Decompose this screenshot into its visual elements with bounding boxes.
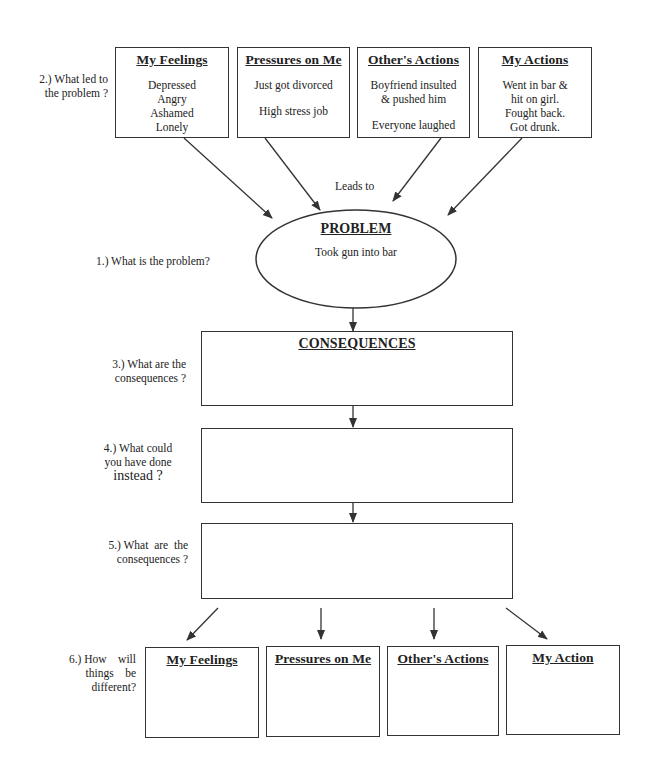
problem-text: Took gun into bar xyxy=(256,246,456,258)
box-line: High stress job xyxy=(238,104,349,118)
box-line: Everyone laughed xyxy=(358,118,469,132)
consequences-title: CONSEQUENCES xyxy=(202,336,512,352)
step-3-label: 3.) What are the consequences ? xyxy=(100,357,186,385)
box-line: Went in bar & xyxy=(479,78,591,92)
alternative-action-box xyxy=(201,428,513,503)
step-5-label: 5.) What are the consequences ? xyxy=(100,538,188,566)
top-box-my-feelings: My Feelings Depressed Angry Ashamed Lone… xyxy=(115,47,229,138)
consequences-box: CONSEQUENCES xyxy=(201,331,513,406)
leads-to-label: Leads to xyxy=(335,180,374,192)
bottom-box-others-actions: Other's Actions xyxy=(387,646,499,736)
problem-ellipse: PROBLEM Took gun into bar xyxy=(256,221,456,258)
box-line: Angry xyxy=(116,92,228,106)
step-6-label: 6.) How will things be different? xyxy=(58,652,136,694)
step-4-line-1: 4.) What could xyxy=(98,441,178,455)
step-2-line-2: the problem ? xyxy=(20,86,108,100)
step-4-line-2: you have done xyxy=(98,455,178,469)
step-4-label: 4.) What could you have done instead ? xyxy=(98,441,178,483)
step-1-label: 1.) What is the problem? xyxy=(96,255,210,267)
problem-title: PROBLEM xyxy=(256,221,456,237)
box-title: Other's Actions xyxy=(358,52,469,68)
box-line: Got drunk. xyxy=(479,120,591,134)
top-box-others-actions: Other's Actions Boyfriend insulted & pus… xyxy=(357,47,470,138)
box-line: Depressed xyxy=(116,78,228,92)
step-6-line-3: different? xyxy=(58,680,136,694)
box-title: My Feelings xyxy=(116,52,228,68)
bottom-box-my-feelings: My Feelings xyxy=(145,647,259,738)
top-box-pressures-on-me: Pressures on Me Just got divorced High s… xyxy=(237,47,350,138)
box-line: Ashamed xyxy=(116,106,228,120)
step-2-line-1: 2.) What led to xyxy=(20,72,108,86)
box-line: hit on girl. xyxy=(479,92,591,106)
top-box-my-actions: My Actions Went in bar & hit on girl. Fo… xyxy=(478,47,592,138)
step-6-line-1: 6.) How will xyxy=(58,652,136,666)
step-3-line-2: consequences ? xyxy=(100,371,186,385)
box-line: Just got divorced xyxy=(238,78,349,92)
box-line: & pushed him xyxy=(358,92,469,106)
step-5-line-1: 5.) What are the xyxy=(100,538,188,552)
box-title: Other's Actions xyxy=(388,651,498,667)
box-line: Boyfriend insulted xyxy=(358,78,469,92)
step-2-label: 2.) What led to the problem ? xyxy=(20,72,108,100)
step-6-line-2: things be xyxy=(58,666,136,680)
box-title: My Actions xyxy=(479,52,591,68)
alternative-consequences-box xyxy=(201,523,513,599)
box-title: My Action xyxy=(507,650,619,666)
box-line: Fought back. xyxy=(479,106,591,120)
box-title: My Feelings xyxy=(146,652,258,668)
box-line: Lonely xyxy=(116,120,228,134)
step-4-line-3: instead ? xyxy=(98,469,178,483)
step-3-line-1: 3.) What are the xyxy=(100,357,186,371)
step-5-line-2: consequences ? xyxy=(100,552,188,566)
bottom-box-pressures-on-me: Pressures on Me xyxy=(266,646,380,737)
bottom-box-my-action: My Action xyxy=(506,645,620,735)
box-title: Pressures on Me xyxy=(238,52,349,68)
box-title: Pressures on Me xyxy=(267,651,379,667)
